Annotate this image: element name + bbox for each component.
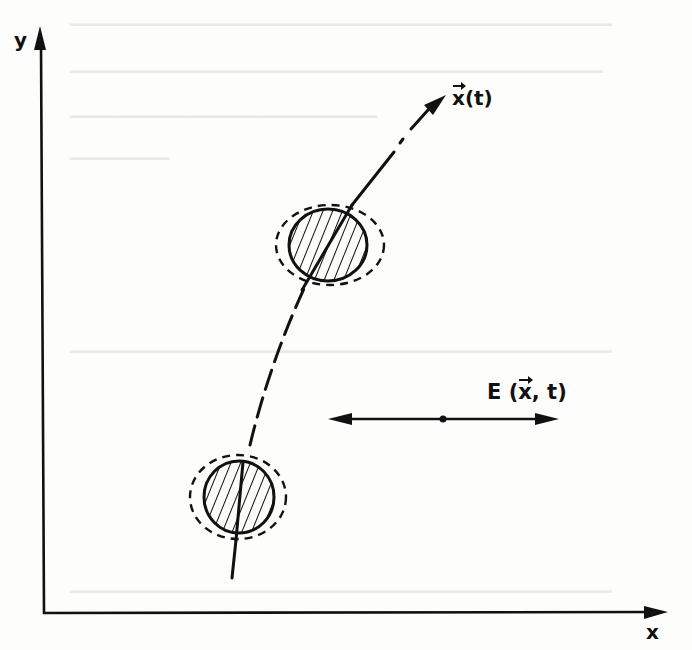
particle-lower-hatching bbox=[200, 458, 280, 538]
x-axis-label: x bbox=[646, 622, 659, 642]
y-axis-arrowhead-icon bbox=[34, 26, 46, 50]
trajectory-tail bbox=[232, 540, 236, 578]
x-axis-arrowhead-icon bbox=[644, 606, 668, 619]
figure: ▁▁▁▁▁▁▁▁▁▁▁▁▁▁▁▁▁▁▁▁▁▁▁▁▁▁▁▁▁▁▁▁▁▁▁▁▁▁▁▁… bbox=[0, 0, 692, 650]
field-label: E (x, t) bbox=[487, 382, 567, 403]
field-arrowhead-left-icon bbox=[328, 413, 352, 425]
field-center-dot bbox=[440, 416, 447, 423]
vector-x: x bbox=[452, 88, 465, 108]
particle-upper-hatching bbox=[285, 205, 375, 285]
trajectory-final-dash bbox=[411, 110, 428, 129]
y-axis-label: y bbox=[14, 30, 27, 50]
field-arrowhead-right-icon bbox=[535, 413, 559, 425]
field-arrow bbox=[328, 413, 559, 425]
particle-lower bbox=[190, 455, 286, 539]
trajectory-dot bbox=[400, 139, 403, 143]
axes bbox=[34, 26, 668, 619]
trajectory-dashed-middle bbox=[250, 282, 307, 445]
trajectory-label-arg: (t) bbox=[465, 86, 493, 110]
trajectory-upper-solid bbox=[352, 152, 394, 205]
field-label-suffix: , t) bbox=[532, 380, 567, 404]
axes-lines bbox=[41, 44, 652, 613]
field-label-prefix: E ( bbox=[487, 380, 518, 404]
trajectory-label: x(t) bbox=[452, 88, 493, 108]
particle-upper bbox=[276, 205, 384, 285]
vector-x: x bbox=[518, 382, 532, 403]
diagram-canvas bbox=[0, 0, 692, 650]
